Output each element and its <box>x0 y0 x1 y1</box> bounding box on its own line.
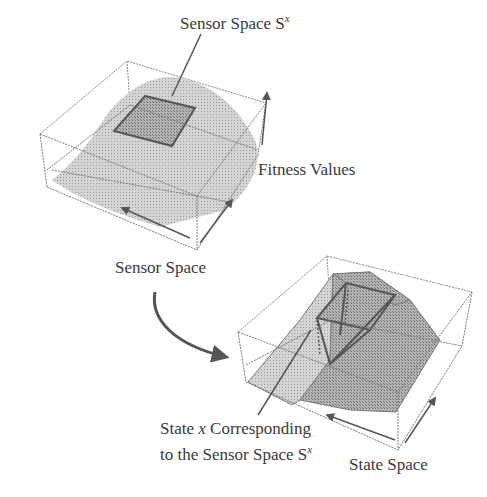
transition-arrow <box>154 292 226 357</box>
state-x-line2: to the Sensor Space Sx <box>160 439 312 465</box>
fitness-values-label: Fitness Values <box>258 161 355 178</box>
top-sensor-space-sx-sup: x <box>285 12 290 24</box>
state-x-line1: State x Corresponding <box>160 418 312 439</box>
bottom-x-axis-arrow <box>327 415 395 440</box>
top-fitness-plot <box>40 34 267 250</box>
top-sensor-space-sx-text: Sensor Space S <box>180 14 285 33</box>
top-z-axis-arrow <box>262 93 267 145</box>
state-x-corresponding-label: State x Corresponding to the Sensor Spac… <box>160 418 312 465</box>
top-sensor-space-sx-label: Sensor Space Sx <box>180 13 290 32</box>
bottom-y-axis-arrow <box>405 398 435 443</box>
sensor-space-label: Sensor Space <box>115 259 206 276</box>
state-space-label: State Space <box>349 456 428 473</box>
